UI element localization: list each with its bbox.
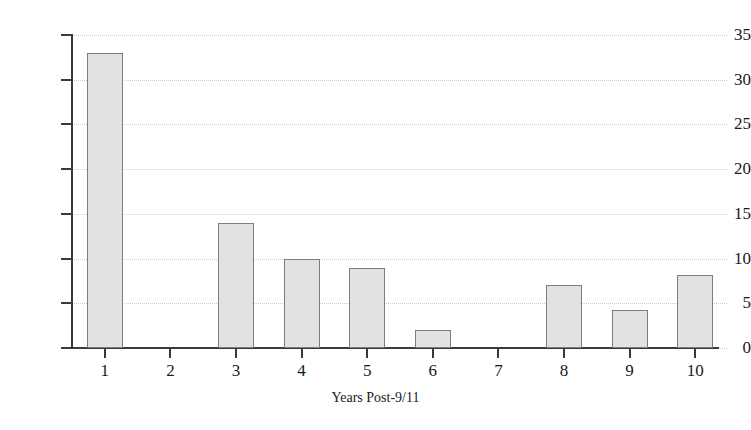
y-axis-label: 25 bbox=[711, 115, 751, 132]
x-axis-tick bbox=[432, 349, 434, 358]
bar-chart: 05101520253035 12345678910 Years Post-9/… bbox=[0, 0, 751, 430]
gridline bbox=[72, 214, 727, 215]
x-axis-tick bbox=[629, 349, 631, 358]
y-axis-tick bbox=[61, 347, 72, 349]
gridline bbox=[72, 35, 727, 36]
y-axis-label: 15 bbox=[711, 205, 751, 222]
x-axis-tick bbox=[694, 349, 696, 358]
x-axis-label: 8 bbox=[544, 361, 584, 381]
x-axis-label: 5 bbox=[347, 361, 387, 381]
bar bbox=[349, 268, 385, 348]
bar bbox=[677, 275, 713, 348]
y-axis-tick bbox=[61, 302, 72, 304]
y-axis-label: 20 bbox=[711, 160, 751, 177]
y-axis-tick bbox=[61, 34, 72, 36]
gridline bbox=[72, 169, 727, 170]
x-axis-title: Years Post-9/11 bbox=[0, 390, 751, 406]
x-axis-label: 7 bbox=[478, 361, 518, 381]
x-axis-label: 10 bbox=[675, 361, 715, 381]
x-axis-tick bbox=[497, 349, 499, 358]
x-axis-label: 3 bbox=[216, 361, 256, 381]
y-axis-tick bbox=[61, 123, 72, 125]
x-axis-tick bbox=[301, 349, 303, 358]
y-axis-tick bbox=[61, 258, 72, 260]
y-axis-label: 10 bbox=[711, 250, 751, 267]
y-axis-tick bbox=[61, 213, 72, 215]
x-axis-label: 4 bbox=[282, 361, 322, 381]
bar bbox=[415, 330, 451, 348]
gridline bbox=[72, 80, 727, 81]
y-axis-tick bbox=[61, 79, 72, 81]
bar bbox=[218, 223, 254, 348]
gridline bbox=[72, 259, 727, 260]
x-axis-tick bbox=[169, 349, 171, 358]
gridline bbox=[72, 303, 727, 304]
bar bbox=[612, 310, 648, 348]
y-axis-tick bbox=[61, 168, 72, 170]
x-axis-tick bbox=[104, 349, 106, 358]
bar bbox=[546, 285, 582, 348]
x-axis-label: 6 bbox=[413, 361, 453, 381]
x-axis-tick bbox=[366, 349, 368, 358]
bar bbox=[87, 53, 123, 348]
x-axis-label: 9 bbox=[610, 361, 650, 381]
x-axis-label: 1 bbox=[85, 361, 125, 381]
y-axis-label: 30 bbox=[711, 71, 751, 88]
y-axis-label: 5 bbox=[711, 294, 751, 311]
x-axis-tick bbox=[563, 349, 565, 358]
x-axis-tick bbox=[235, 349, 237, 358]
y-axis-label: 35 bbox=[711, 26, 751, 43]
gridline bbox=[72, 124, 727, 125]
bar bbox=[284, 259, 320, 348]
y-axis-label: 0 bbox=[711, 339, 751, 356]
plot-area bbox=[72, 35, 728, 348]
x-axis-label: 2 bbox=[150, 361, 190, 381]
